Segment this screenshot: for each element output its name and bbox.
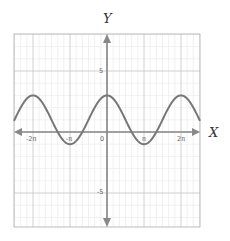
x-tick-label-neg-pi: -π <box>66 135 72 143</box>
x-axis-right-arrow-icon <box>192 128 200 136</box>
function-graph: Y X -2π -π 0 π 2π 5 -5 <box>0 0 230 241</box>
x-tick-label-neg-2pi: -2π <box>26 135 36 143</box>
y-axis-up-arrow-icon <box>103 34 111 43</box>
x-axis-left-arrow-icon <box>14 128 22 136</box>
y-axis-down-arrow-icon <box>103 218 111 227</box>
x-tick-label-pi: π <box>142 135 146 143</box>
y-axis-title: Y <box>103 11 113 26</box>
x-tick-label-zero: 0 <box>100 135 104 143</box>
x-tick-label-2pi: 2π <box>177 135 185 143</box>
y-tick-label-5: 5 <box>99 67 103 75</box>
x-axis-title: X <box>208 125 219 140</box>
y-tick-label-neg5: -5 <box>97 188 103 196</box>
